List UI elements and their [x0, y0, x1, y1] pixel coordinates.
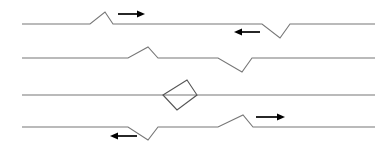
arrow-right-frame-1 — [118, 11, 145, 18]
arrow-right-frame-1-head-icon — [137, 11, 145, 18]
frame-3-group — [22, 80, 375, 110]
arrow-left-frame-1-head-icon — [234, 29, 242, 36]
figure-canvas — [0, 0, 388, 152]
arrow-right-frame-4-head-icon — [277, 114, 285, 121]
frame-4-group — [22, 115, 375, 140]
arrow-left-frame-4 — [110, 133, 137, 140]
wave-line-frame-2 — [22, 47, 375, 72]
direction-arrow-layer — [110, 11, 285, 140]
wave-line-frame-1 — [22, 12, 375, 38]
wave-line-frame-4 — [22, 115, 375, 140]
wave-collision-figure — [0, 0, 388, 152]
arrow-left-frame-4-head-icon — [110, 133, 118, 140]
frame-2-group — [22, 47, 375, 72]
frame-1-group — [22, 12, 375, 38]
arrow-left-frame-1 — [234, 29, 260, 36]
arrow-right-frame-4 — [256, 114, 285, 121]
